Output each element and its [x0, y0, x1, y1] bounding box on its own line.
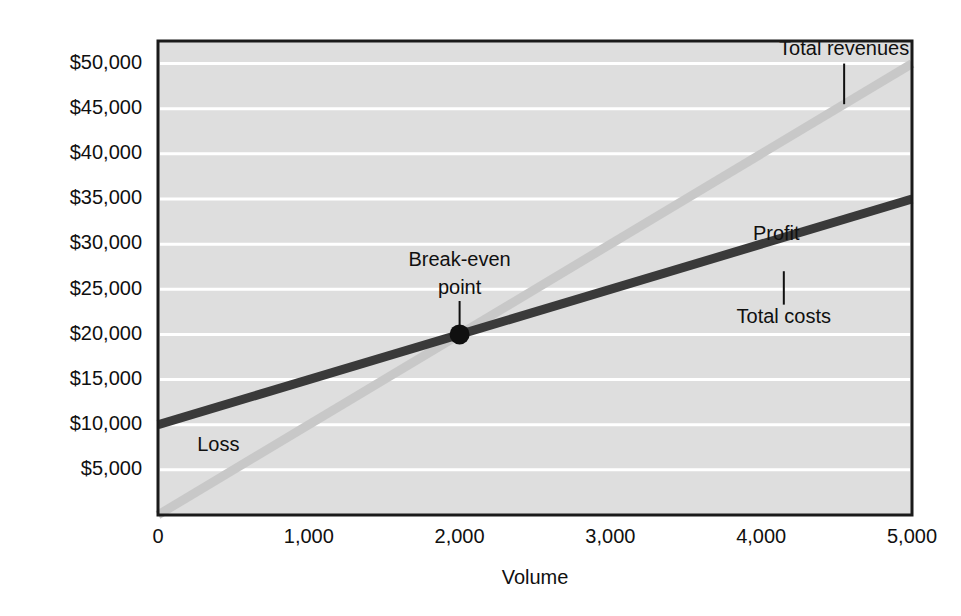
y-tick-label: $35,000 — [70, 186, 142, 208]
break-even-chart: Total revenuesProfitTotal costsBreak-eve… — [0, 0, 961, 616]
y-tick-label: $40,000 — [70, 141, 142, 163]
y-tick-label: $5,000 — [81, 457, 142, 479]
break-even-point-line2-label: point — [438, 276, 482, 298]
y-tick-label: $50,000 — [70, 51, 142, 73]
x-tick-label: 1,000 — [284, 525, 334, 547]
y-tick-label: $15,000 — [70, 367, 142, 389]
y-tick-label: $10,000 — [70, 412, 142, 434]
x-tick-label: 5,000 — [887, 525, 937, 547]
profit-label: Profit — [753, 222, 800, 244]
y-tick-label: $25,000 — [70, 277, 142, 299]
break-even-point-line1-label: Break-even — [408, 248, 510, 270]
x-tick-label: 3,000 — [585, 525, 635, 547]
x-axis-title: Volume — [502, 566, 569, 588]
y-tick-label: $20,000 — [70, 322, 142, 344]
chart-canvas: Total revenuesProfitTotal costsBreak-eve… — [0, 0, 961, 616]
x-tick-label: 0 — [152, 525, 163, 547]
y-tick-label: $30,000 — [70, 231, 142, 253]
y-tick-label: $45,000 — [70, 96, 142, 118]
x-tick-label: 4,000 — [736, 525, 786, 547]
loss-label: Loss — [197, 433, 239, 455]
total-costs-label: Total costs — [737, 305, 831, 327]
x-tick-label: 2,000 — [435, 525, 485, 547]
